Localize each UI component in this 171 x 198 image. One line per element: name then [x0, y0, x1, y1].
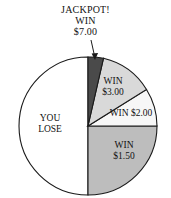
pie-chart-figure: JACKPOT! WIN $7.00 YOU LOSE WIN $3.00 WI…: [0, 0, 171, 198]
pie-slice-you-lose: [19, 57, 88, 195]
pie-slice-win-1-50: [88, 126, 157, 195]
pie-chart-svg: [0, 0, 171, 198]
